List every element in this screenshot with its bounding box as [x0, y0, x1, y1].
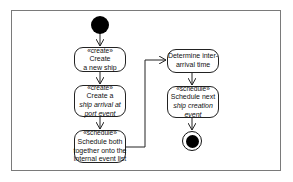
- activity-text: arrival time: [176, 61, 210, 70]
- stereotype-label: «create»: [87, 84, 113, 93]
- stereotype-label: «create»: [87, 47, 113, 56]
- stereotype-label: «schedule»: [83, 129, 117, 138]
- initial-node-icon: [91, 16, 109, 34]
- activity-determine-interarrival[interactable]: Determine inter- arrival time: [167, 49, 219, 73]
- activity-schedule-next-creation[interactable]: «schedule» Schedule next ship creation e…: [167, 86, 219, 118]
- control-flows: [0, 0, 293, 182]
- stereotype-label: «schedule»: [176, 85, 210, 94]
- activity-text: ship arrival at: [79, 101, 121, 110]
- activity-text: Create a: [87, 92, 114, 101]
- activity-text: port event: [84, 110, 115, 119]
- activity-text: Create: [89, 55, 110, 64]
- activity-text: Schedule next: [171, 93, 215, 102]
- activity-text: Determine inter-: [168, 52, 218, 61]
- activity-text: ship creation: [173, 102, 213, 111]
- activity-text: a new ship: [83, 64, 116, 73]
- activity-schedule-both[interactable]: «schedule» Schedule both together onto t…: [74, 130, 126, 163]
- flow-a3-to-a4: [126, 60, 166, 147]
- activity-text: Schedule both: [78, 138, 123, 147]
- activity-create-ship[interactable]: «create» Create a new ship: [74, 47, 126, 72]
- final-node-inner-icon: [186, 135, 199, 148]
- activity-text: event: [184, 111, 201, 120]
- activity-text: internal event list: [74, 155, 127, 164]
- activity-create-arrival-event[interactable]: «create» Create a ship arrival at port e…: [74, 85, 126, 117]
- activity-text: together onto the: [74, 147, 127, 156]
